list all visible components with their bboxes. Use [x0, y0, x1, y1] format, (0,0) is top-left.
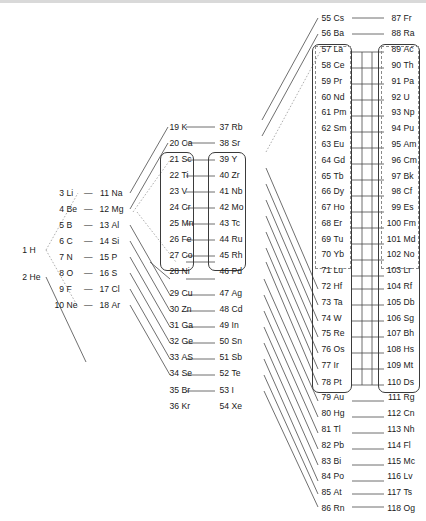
element-np-93[interactable]: 93Np — [384, 107, 415, 118]
element-sg-106[interactable]: 106Sg — [384, 312, 414, 323]
element-bh-107[interactable]: 107Bh — [384, 328, 414, 339]
element-gd-64[interactable]: 64Gd — [318, 155, 345, 166]
element-kr-36[interactable]: 36Kr — [166, 400, 190, 411]
element-po-84[interactable]: 84Po — [318, 471, 344, 482]
element-pa-91[interactable]: 91Pa — [384, 76, 414, 87]
element-ga-31[interactable]: 31Ga — [166, 320, 193, 331]
element-se-34[interactable]: 34Se — [166, 368, 192, 379]
element-be-4[interactable]: 4Be — [53, 204, 77, 215]
element-es-99[interactable]: 99Es — [384, 202, 414, 213]
element-fl-114[interactable]: 114Fl — [384, 440, 411, 451]
element-co-27[interactable]: 27Co — [166, 250, 193, 261]
element-pr-59[interactable]: 59Pr — [318, 76, 342, 87]
element-h-1[interactable]: 1H — [16, 245, 36, 256]
element-og-118[interactable]: 118Og — [384, 503, 415, 514]
element-p-15[interactable]: 15P — [96, 252, 117, 263]
element-mg-12[interactable]: 12Mg — [96, 204, 123, 215]
element-rh-45[interactable]: 45Rh — [216, 250, 243, 261]
element-c-6[interactable]: 6C — [53, 236, 73, 247]
element-lr-103[interactable]: 103Lr — [384, 265, 411, 276]
element-mn-25[interactable]: 25Mn — [166, 218, 193, 229]
element-cs-55[interactable]: 55Cs — [318, 13, 344, 24]
element-n-7[interactable]: 7N — [53, 252, 73, 263]
element-o-8[interactable]: 8O — [53, 268, 73, 279]
element-hs-108[interactable]: 108Hs — [384, 344, 414, 355]
element-te-52[interactable]: 52Te — [216, 368, 241, 379]
element-ta-73[interactable]: 73Ta — [318, 297, 343, 308]
element-er-68[interactable]: 68Er — [318, 218, 342, 229]
element-i-53[interactable]: 53I — [216, 384, 234, 395]
element-tc-43[interactable]: 43Tc — [216, 218, 240, 229]
element-cn-112[interactable]: 112Cn — [384, 408, 415, 419]
element-pb-82[interactable]: 82Pb — [318, 440, 344, 451]
element-tb-65[interactable]: 65Tb — [318, 170, 344, 181]
element-ca-20[interactable]: 20Ca — [166, 138, 193, 149]
element-in-49[interactable]: 49In — [216, 320, 239, 331]
element-f-9[interactable]: 9F — [53, 284, 72, 295]
element-xe-54[interactable]: 54Xe — [216, 400, 242, 411]
element-hg-80[interactable]: 80Hg — [318, 408, 345, 419]
element-li-3[interactable]: 3Li — [53, 188, 73, 199]
element-md-101[interactable]: 101Md — [384, 233, 415, 244]
element-al-13[interactable]: 13Al — [96, 220, 119, 231]
element-dy-66[interactable]: 66Dy — [318, 186, 344, 197]
element-pm-61[interactable]: 61Pm — [318, 107, 346, 118]
element-k-19[interactable]: 19K — [166, 122, 187, 133]
element-re-75[interactable]: 75Re — [318, 328, 345, 339]
element-rg-111[interactable]: 111Rg — [384, 392, 415, 403]
element-lv-116[interactable]: 116Lv — [384, 471, 413, 482]
element-cr-24[interactable]: 24Cr — [166, 202, 191, 213]
element-sn-50[interactable]: 50Sn — [216, 336, 242, 347]
element-sc-21[interactable]: 21Sc — [166, 154, 192, 165]
element-nd-60[interactable]: 60Nd — [318, 91, 345, 102]
element-ag-47[interactable]: 47Ag — [216, 288, 242, 299]
element-ho-67[interactable]: 67Ho — [318, 202, 345, 213]
element-cl-17[interactable]: 17Cl — [96, 284, 120, 295]
element-yb-70[interactable]: 70Yb — [318, 249, 344, 260]
element-br-35[interactable]: 35Br — [166, 384, 190, 395]
element-cm-96[interactable]: 96Cm — [384, 155, 417, 166]
element-pu-94[interactable]: 94Pu — [384, 123, 414, 134]
element-db-105[interactable]: 105Db — [384, 297, 415, 308]
element-he-2[interactable]: 2He — [16, 272, 41, 283]
element-mt-109[interactable]: 109Mt — [384, 360, 413, 371]
element-ds-110[interactable]: 110Ds — [384, 376, 414, 387]
element-fm-100[interactable]: 100Fm — [384, 218, 416, 229]
element-bi-83[interactable]: 83Bi — [318, 455, 341, 466]
element-la-57[interactable]: 57La — [318, 44, 343, 55]
element-w-74[interactable]: 74W — [318, 312, 342, 323]
element-th-90[interactable]: 90Th — [384, 60, 414, 71]
element-lu-71[interactable]: 71Lu — [318, 265, 343, 276]
element-au-79[interactable]: 79Au — [318, 392, 344, 403]
element-rn-86[interactable]: 86Rn — [318, 503, 345, 514]
element-ba-56[interactable]: 56Ba — [318, 28, 344, 39]
element-si-14[interactable]: 14Si — [96, 236, 119, 247]
element-fr-87[interactable]: 87Fr — [384, 13, 412, 24]
element-mo-42[interactable]: 42Mo — [216, 202, 243, 213]
element-os-76[interactable]: 76Os — [318, 344, 344, 355]
element-sb-51[interactable]: 51Sb — [216, 352, 242, 363]
element-sr-38[interactable]: 38Sr — [216, 138, 240, 149]
element-rf-104[interactable]: 104Rf — [384, 281, 412, 292]
element-zr-40[interactable]: 40Zr — [216, 170, 240, 181]
element-ar-18[interactable]: 18Ar — [96, 300, 120, 311]
element-bk-97[interactable]: 97Bk — [384, 170, 414, 181]
element-s-16[interactable]: 16S — [96, 268, 117, 279]
element-ne-10[interactable]: 10Ne — [53, 300, 78, 311]
element-ra-88[interactable]: 88Ra — [384, 28, 415, 39]
element-hf-72[interactable]: 72Hf — [318, 281, 342, 292]
element-nh-113[interactable]: 113Nh — [384, 424, 415, 435]
element-ti-22[interactable]: 22Ti — [166, 170, 188, 181]
element-cd-48[interactable]: 48Cd — [216, 304, 243, 315]
element-cf-98[interactable]: 98Cf — [384, 186, 412, 197]
element-am-95[interactable]: 95Am — [384, 139, 416, 150]
element-cu-29[interactable]: 29Cu — [166, 288, 193, 299]
element-as-33[interactable]: 33AS — [166, 352, 193, 363]
element-u-92[interactable]: 92U — [384, 91, 410, 102]
element-fe-26[interactable]: 26Fe — [166, 234, 192, 245]
element-ac-89[interactable]: 89Ac — [384, 44, 414, 55]
element-b-5[interactable]: 5B — [53, 220, 72, 231]
element-ce-58[interactable]: 58Ce — [318, 60, 345, 71]
element-y-39[interactable]: 39Y — [216, 154, 237, 165]
element-ru-44[interactable]: 44Ru — [216, 234, 243, 245]
